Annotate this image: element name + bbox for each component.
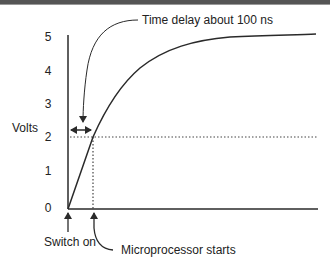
y-tick-1: 1 (41, 165, 55, 177)
y-tick-3: 3 (41, 98, 55, 110)
y-tick-2: 2 (41, 131, 55, 143)
time-delay-label: Time delay about 100 ns (142, 14, 273, 26)
y-axis-label: Volts (12, 122, 38, 134)
y-tick-0: 0 (41, 202, 55, 214)
y-tick-5: 5 (41, 31, 55, 43)
micro-starts-arrow (94, 213, 113, 250)
time-delay-callout (83, 20, 138, 122)
y-tick-4: 4 (41, 65, 55, 77)
voltage-curve (68, 34, 316, 209)
micro-starts-label: Microprocessor starts (121, 244, 236, 256)
switch-on-label: Switch on (44, 236, 96, 248)
